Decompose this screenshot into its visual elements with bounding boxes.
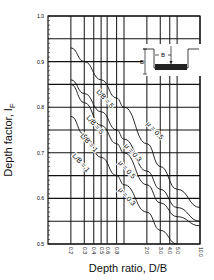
footing-inset: DB [140, 44, 201, 76]
y-tick-label: 0.6 [37, 195, 44, 201]
y-tick-label: 0.8 [37, 104, 44, 110]
footing-block [155, 64, 187, 70]
x-tick-label: 3.0 [158, 247, 164, 254]
curve-label: μ = 0.3 [117, 186, 138, 208]
inset-label-d: D [140, 59, 145, 65]
curve-label: L/B = 5 [95, 88, 115, 109]
x-tick-label: 0.5 [99, 247, 105, 254]
y-tick-label: 0.9 [37, 59, 44, 65]
x-tick-label: 2.0 [144, 247, 150, 254]
x-tick-label: 0.2 [68, 247, 74, 254]
x-tick-label: 5.0 [175, 247, 181, 254]
x-tick-label: 0.6 [105, 247, 111, 254]
inset-label-b: B [161, 52, 165, 58]
x-axis-label: Depth ratio, D/B [48, 262, 208, 274]
x-tick-label: 4.0 [167, 247, 173, 254]
depth-factor-chart: 1.00.90.80.70.60.50.20.30.40.50.60.82.03… [0, 0, 214, 280]
y-tick-label: 0.5 [37, 241, 44, 247]
curve-label: L/B = 1 [71, 152, 91, 173]
x-tick-label: 0.4 [91, 247, 97, 254]
curve-label: L/B = 1 [79, 132, 99, 153]
y-tick-label: 1.0 [37, 13, 44, 19]
x-tick-label: 10.0 [198, 247, 204, 257]
curve-label: μ = 0.5 [145, 120, 166, 142]
y-axis-label: Depth factor, IF [2, 75, 16, 205]
y-tick-label: 0.7 [37, 150, 44, 156]
curve-label: μ = 0.5 [117, 159, 138, 181]
x-tick-label: 0.3 [82, 247, 88, 254]
x-tick-label: 0.8 [114, 247, 120, 254]
curve-label: L/B = 5 [85, 114, 105, 135]
